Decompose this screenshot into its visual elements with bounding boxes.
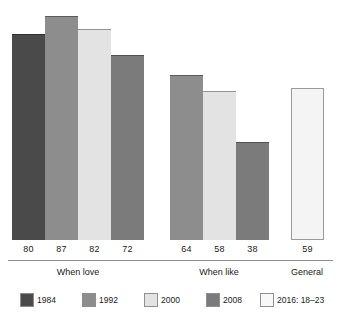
group-axis-label: When love: [33, 265, 123, 279]
legend-item: 2016: 18–23: [260, 292, 324, 308]
bar: [236, 142, 269, 240]
bar-value-label: 64: [170, 243, 203, 256]
legend-item: 1984: [20, 292, 56, 308]
plot-area: [0, 0, 341, 242]
bar-value-label: 38: [236, 243, 269, 256]
legend-swatch-icon: [206, 293, 220, 307]
legend-swatch-icon: [260, 293, 274, 307]
value-label-row: 8087827264583859: [0, 243, 341, 258]
legend-item: 1992: [82, 292, 118, 308]
group-axis-label: General: [262, 265, 341, 279]
bar: [45, 16, 78, 240]
bar: [12, 34, 45, 240]
bar: [111, 55, 144, 240]
bar-value-label: 80: [12, 243, 45, 256]
bar-value-label: 87: [45, 243, 78, 256]
bar-value-label: 72: [111, 243, 144, 256]
legend-label: 2008: [223, 293, 242, 307]
group-axis-label: When like: [174, 265, 264, 279]
legend-swatch-icon: [82, 293, 96, 307]
bar-value-label: 58: [203, 243, 236, 256]
bar-value-label: 59: [291, 243, 324, 256]
legend-label: 2016: 18–23: [277, 293, 324, 307]
legend-swatch-icon: [144, 293, 158, 307]
group-label-row: When loveWhen likeGeneral: [0, 265, 341, 281]
legend-label: 1992: [99, 293, 118, 307]
bar-value-label: 82: [78, 243, 111, 256]
legend-item: 2008: [206, 292, 242, 308]
legend-swatch-icon: [20, 293, 34, 307]
legend-label: 2000: [161, 293, 180, 307]
axis-baseline: [8, 260, 333, 261]
legend-label: 1984: [37, 293, 56, 307]
legend-item: 2000: [144, 292, 180, 308]
bar-chart: 8087827264583859 When loveWhen likeGener…: [0, 0, 341, 320]
bar: [203, 91, 236, 240]
bar: [291, 88, 324, 240]
bar: [78, 29, 111, 240]
bar: [170, 75, 203, 240]
chart-legend: 19841992200020082016: 18–23: [0, 292, 341, 312]
